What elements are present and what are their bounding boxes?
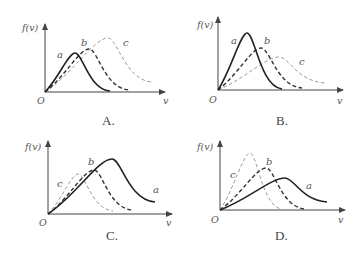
- curve-label-b: b: [264, 35, 270, 46]
- x-axis-label: v: [337, 95, 343, 106]
- curve-label-a: a: [231, 35, 237, 46]
- option-caption: A.: [102, 113, 115, 128]
- curve-label-c: c: [123, 37, 129, 48]
- origin-label: O: [211, 214, 219, 225]
- curve-a: [45, 53, 110, 92]
- figure-canvas: f(v)vOcbaA.f(v)vOcbaB.f(v)vOcbaC.f(v)vOc…: [0, 0, 364, 258]
- curve-label-c: c: [57, 178, 63, 189]
- curve-label-c: c: [299, 56, 305, 67]
- curve-label-b: b: [266, 156, 272, 167]
- x-axis-label: v: [163, 95, 169, 106]
- curve-c: [45, 38, 152, 92]
- curve-label-a: a: [153, 184, 159, 195]
- panel-b: f(v)vOcbaB.: [196, 17, 343, 128]
- panel-a: f(v)vOcbaA.: [21, 22, 169, 128]
- option-caption: B.: [276, 113, 288, 128]
- panel-c: f(v)vOcbaC.: [24, 141, 172, 243]
- option-caption: C.: [106, 228, 118, 243]
- origin-label: O: [209, 94, 217, 105]
- curve-label-a: a: [306, 180, 312, 191]
- option-caption: D.: [275, 228, 288, 243]
- origin-label: O: [37, 95, 45, 106]
- origin-label: O: [39, 217, 47, 228]
- curve-label-c: c: [230, 169, 236, 180]
- curve-label-b: b: [88, 156, 94, 167]
- y-axis-label: f(v): [196, 19, 214, 30]
- curve-label-a: a: [57, 49, 63, 60]
- curve-label-b: b: [81, 37, 87, 48]
- x-axis-label: v: [338, 214, 344, 225]
- y-axis-label: f(v): [24, 141, 42, 152]
- x-axis-label: v: [166, 217, 172, 228]
- y-axis-label: f(v): [21, 22, 39, 33]
- y-axis-label: f(v): [196, 141, 214, 152]
- panel-d: f(v)vOcbaD.: [196, 141, 345, 243]
- panels-root: f(v)vOcbaA.f(v)vOcbaB.f(v)vOcbaC.f(v)vOc…: [21, 17, 345, 243]
